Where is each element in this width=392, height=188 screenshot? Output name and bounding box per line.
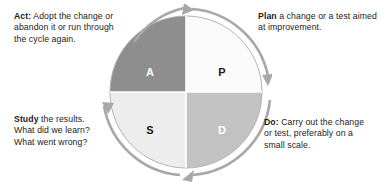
- caption-act-lead: Act:: [14, 11, 31, 21]
- caption-do: Do: Carry out the change or test, prefer…: [264, 117, 388, 151]
- cycle-arrowhead-bottom: [182, 170, 194, 182]
- cycle-arrowhead-top: [182, 4, 194, 15]
- quadrant-p-sector: [186, 16, 262, 92]
- caption-study-line2: What did we learn?: [14, 125, 132, 136]
- caption-study-line1-rest: the results.: [39, 114, 85, 124]
- pdsa-cycle-diagram: A P S D Act: Adopt the change or abandon…: [0, 0, 392, 188]
- caption-do-line3: small scale.: [264, 140, 388, 151]
- caption-do-line1-rest: Carry out the change: [279, 117, 364, 127]
- caption-plan-line1-rest: a change or a test aimed: [277, 11, 377, 21]
- quadrant-label-a: A: [146, 66, 154, 78]
- caption-plan-lead: Plan: [258, 11, 277, 21]
- caption-plan: Plan a change or a test aimed at improve…: [258, 11, 386, 34]
- caption-do-lead: Do:: [264, 117, 279, 127]
- caption-plan-line2: at improvement.: [258, 22, 386, 33]
- quadrant-label-d: D: [218, 124, 226, 136]
- caption-act-line3: the cycle again.: [14, 34, 132, 45]
- caption-do-line2: or test, preferably on a: [264, 128, 388, 139]
- caption-study-lead: Study: [14, 114, 39, 124]
- cycle-arrowhead-right: [262, 74, 272, 86]
- quadrant-label-p: P: [218, 66, 225, 78]
- quadrant-label-s: S: [146, 124, 153, 136]
- caption-study-line3: What went wrong?: [14, 137, 132, 148]
- caption-act: Act: Adopt the change or abandon it or r…: [14, 11, 132, 45]
- caption-act-line2: abandon it or run through: [14, 22, 132, 33]
- caption-study: Study the results. What did we learn? Wh…: [14, 114, 132, 148]
- caption-act-line1-rest: Adopt the change or: [31, 11, 113, 21]
